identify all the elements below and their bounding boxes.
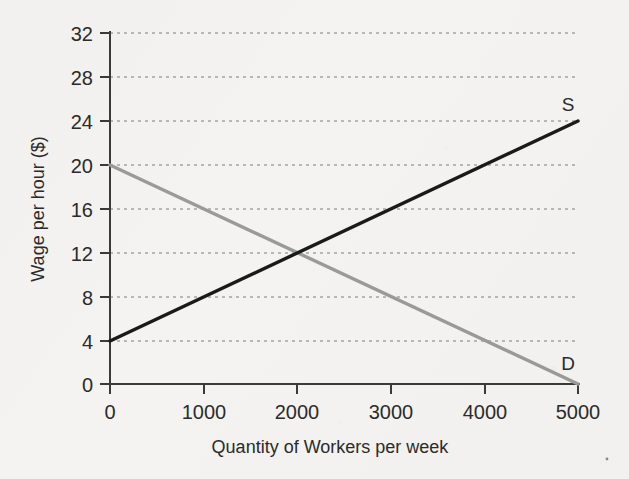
demand-curve-line (110, 165, 578, 384)
demand-curve-label: D (561, 353, 575, 374)
x-tick-label-5000: 5000 (556, 401, 601, 423)
labor-market-chart: 32 28 24 20 16 12 8 4 0 0 1000 2000 3000… (0, 0, 629, 479)
y-axis-title: Wage per hour ($) (28, 136, 48, 281)
x-tick-label-4000: 4000 (463, 401, 508, 423)
y-tick-label-0: 0 (82, 374, 93, 396)
supply-curve-line (110, 121, 578, 341)
x-axis-ticks (110, 384, 578, 394)
supply-curve-label: S (562, 94, 575, 115)
y-tick-label-8: 8 (82, 287, 93, 309)
x-axis-tick-labels: 0 1000 2000 3000 4000 5000 (104, 401, 600, 423)
x-tick-label-3000: 3000 (369, 401, 414, 423)
gridlines-horizontal (110, 33, 578, 341)
y-axis-tick-labels: 32 28 24 20 16 12 8 4 0 (71, 23, 93, 396)
chart-canvas: 32 28 24 20 16 12 8 4 0 0 1000 2000 3000… (0, 0, 629, 479)
y-tick-label-12: 12 (71, 243, 93, 265)
x-axis-title: Quantity of Workers per week (212, 437, 450, 457)
x-tick-label-1000: 1000 (182, 401, 227, 423)
y-tick-label-24: 24 (71, 111, 93, 133)
scan-artifact-speck (606, 458, 609, 461)
y-axis-ticks (100, 33, 110, 384)
y-tick-label-4: 4 (82, 331, 93, 353)
y-tick-label-28: 28 (71, 67, 93, 89)
y-tick-label-16: 16 (71, 199, 93, 221)
x-tick-label-0: 0 (104, 401, 115, 423)
y-tick-label-20: 20 (71, 155, 93, 177)
y-tick-label-32: 32 (71, 23, 93, 45)
x-tick-label-2000: 2000 (275, 401, 320, 423)
